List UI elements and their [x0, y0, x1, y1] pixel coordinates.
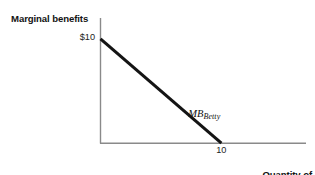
x-axis-title: Quantity of lighthouse services [224, 145, 312, 175]
y-axis-title: Marginal benefits [11, 14, 88, 25]
curve-label-main: MB [188, 108, 203, 119]
marginal-benefit-curve [101, 39, 222, 143]
curve-label-subscript: Betty [203, 112, 220, 121]
y-intercept-label: $10 [70, 32, 95, 42]
x-axis-title-line-1: Quantity of [224, 169, 312, 175]
figure-canvas: Marginal benefits $10 10 Quantity of lig… [0, 0, 315, 175]
curve-label-mb-betty: MBBetty [188, 108, 220, 122]
